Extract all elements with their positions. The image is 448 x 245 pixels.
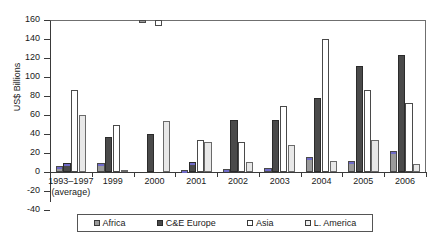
bar-l-america bbox=[246, 162, 253, 172]
swatch-l-america-icon bbox=[305, 220, 311, 226]
bar-cap-highlight bbox=[307, 158, 312, 160]
bar-cap-highlight bbox=[190, 163, 195, 165]
swatch-cee-europe-icon bbox=[157, 220, 163, 226]
bar-asia bbox=[280, 106, 287, 173]
bar-group bbox=[56, 20, 87, 172]
bar-asia bbox=[155, 20, 162, 26]
bar-asia bbox=[405, 103, 412, 172]
bar-cap-highlight bbox=[349, 162, 354, 164]
legend-item-label: Asia bbox=[256, 218, 274, 228]
bar-l-america bbox=[288, 145, 295, 172]
bar-asia bbox=[364, 90, 371, 172]
bar-c-e-europe bbox=[398, 55, 405, 172]
bar-l-america bbox=[204, 142, 211, 172]
bar-c-e-europe bbox=[189, 162, 196, 172]
bar-c-e-europe bbox=[314, 98, 321, 172]
bar-l-america bbox=[79, 115, 86, 172]
legend-item-label: C&E Europe bbox=[166, 218, 216, 228]
y-axis-tick bbox=[44, 210, 50, 211]
bar-asia bbox=[197, 140, 204, 172]
bar-group bbox=[139, 20, 170, 172]
y-axis-tick-label: 0 bbox=[0, 167, 40, 176]
legend-item[interactable]: Asia bbox=[247, 218, 274, 228]
bar-group bbox=[223, 20, 254, 172]
bar-asia bbox=[113, 125, 120, 172]
y-axis-tick-label: 120 bbox=[0, 53, 40, 62]
bar-group bbox=[181, 20, 212, 172]
bar-africa bbox=[223, 169, 230, 172]
bar-africa bbox=[56, 166, 63, 172]
bar-africa bbox=[97, 163, 104, 172]
legend-item[interactable]: L. America bbox=[305, 218, 357, 228]
x-axis-tick-label-line: (average) bbox=[41, 187, 101, 198]
bar-cap-highlight bbox=[182, 171, 187, 173]
y-axis-tick-label: 100 bbox=[0, 72, 40, 81]
bar-c-e-europe bbox=[230, 120, 237, 172]
legend-item[interactable]: C&E Europe bbox=[157, 218, 216, 228]
bar-africa bbox=[264, 168, 271, 172]
y-axis-tick-label: 80 bbox=[0, 91, 40, 100]
bar-c-e-europe bbox=[105, 137, 112, 172]
swatch-africa-icon bbox=[94, 220, 100, 226]
bar-asia bbox=[71, 90, 78, 172]
bars-layer bbox=[50, 20, 426, 202]
y-axis-title: US$ Billions bbox=[12, 37, 22, 137]
legend-item[interactable]: Africa bbox=[94, 218, 126, 228]
y-axis-tick-label: 140 bbox=[0, 34, 40, 43]
bar-l-america bbox=[163, 121, 170, 172]
x-axis-tick-label-line: 2006 bbox=[375, 176, 435, 187]
bar-cap-highlight bbox=[391, 152, 396, 154]
bar-l-america bbox=[121, 170, 128, 172]
bar-group bbox=[306, 20, 337, 172]
bar-africa bbox=[181, 170, 188, 172]
y-axis-tick-label: 60 bbox=[0, 110, 40, 119]
bar-africa bbox=[390, 151, 397, 172]
bar-l-america bbox=[330, 161, 337, 172]
bar-cap-highlight bbox=[265, 169, 270, 171]
y-axis-tick-label: -40 bbox=[0, 205, 40, 214]
bar-group bbox=[390, 20, 421, 172]
bar-group bbox=[348, 20, 379, 172]
bar-c-e-europe bbox=[63, 163, 70, 172]
bar-cap-highlight bbox=[224, 170, 229, 172]
bar-africa bbox=[139, 20, 146, 23]
bar-cap-highlight bbox=[98, 164, 103, 166]
bar-africa bbox=[348, 161, 355, 172]
legend-item-label: Africa bbox=[103, 218, 126, 228]
bar-c-e-europe bbox=[147, 134, 154, 172]
bar-africa bbox=[306, 157, 313, 172]
bar-cap-highlight bbox=[57, 167, 62, 169]
legend-item-label: L. America bbox=[314, 218, 357, 228]
bar-chart-figure: US$ Billions 160140120100806040200-20-40… bbox=[0, 0, 448, 245]
y-axis-tick-label: -20 bbox=[0, 186, 40, 195]
bar-l-america bbox=[413, 164, 420, 172]
y-axis-tick-label: 20 bbox=[0, 148, 40, 157]
y-axis-tick-label: 40 bbox=[0, 129, 40, 138]
bar-group bbox=[264, 20, 295, 172]
swatch-asia-icon bbox=[247, 220, 253, 226]
x-axis-tick-label: 2006 bbox=[375, 176, 435, 187]
bar-c-e-europe bbox=[272, 120, 279, 172]
bar-group bbox=[97, 20, 128, 172]
y-axis-tick-label: 160 bbox=[0, 15, 40, 24]
bar-cap-highlight bbox=[64, 164, 69, 166]
bar-asia bbox=[322, 39, 329, 172]
bar-asia bbox=[238, 142, 245, 172]
bar-c-e-europe bbox=[356, 66, 363, 172]
bar-l-america bbox=[371, 140, 378, 172]
chart-legend: AfricaC&E EuropeAsiaL. America bbox=[77, 214, 373, 232]
